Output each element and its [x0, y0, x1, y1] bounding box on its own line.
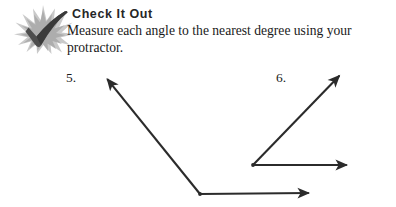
angle-vertex-point	[251, 163, 255, 167]
instruction-line-2: protractor.	[67, 39, 393, 56]
ray-upper-right-ray	[253, 76, 339, 165]
starburst-check-icon	[12, 4, 74, 54]
ray-upper-left-ray	[107, 79, 200, 194]
angle-figure-5	[107, 79, 309, 196]
angle-vertex-point	[198, 192, 202, 196]
ray-horizontal-right-ray	[200, 193, 309, 194]
instruction-line-1: Measure each angle to the nearest degree…	[67, 22, 393, 39]
callout-instruction-text: Measure each angle to the nearest degree…	[67, 22, 393, 56]
callout-heading: Check It Out	[72, 7, 153, 21]
angle-figure-6	[251, 76, 347, 167]
problem-number-5: 5.	[66, 70, 76, 86]
problem-number-6: 6.	[276, 70, 286, 86]
worksheet-page: Check It Out Measure each angle to the n…	[0, 0, 396, 207]
